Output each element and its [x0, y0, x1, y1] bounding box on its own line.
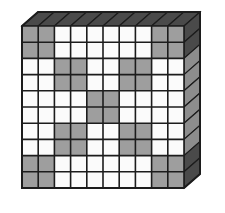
grid-cell-empty [71, 26, 87, 42]
grid-cell-empty [38, 123, 54, 139]
grid-cell-empty [54, 172, 70, 188]
grid-cell-empty [71, 42, 87, 58]
grid-cell-empty [168, 107, 184, 123]
grid-cell-empty [135, 172, 151, 188]
grid-cell-shaded [119, 75, 135, 91]
grid-cell-shaded [168, 26, 184, 42]
grid-cell-shaded [152, 42, 168, 58]
grid-cell-shaded [168, 156, 184, 172]
grid-cell-empty [87, 123, 103, 139]
grid-cell-empty [87, 58, 103, 74]
grid-cell-empty [38, 91, 54, 107]
grid-cell-shaded [38, 26, 54, 42]
grid-cell-empty [135, 91, 151, 107]
grid-cell-empty [119, 107, 135, 123]
grid-cell-shaded [103, 107, 119, 123]
grid-cell-empty [152, 123, 168, 139]
grid-cell-empty [71, 156, 87, 172]
grid-cell-empty [103, 58, 119, 74]
grid-cell-empty [168, 123, 184, 139]
grid-cell-shaded [119, 123, 135, 139]
grid-cell-shaded [168, 172, 184, 188]
grid-cell-shaded [38, 172, 54, 188]
grid-cell-empty [22, 58, 38, 74]
grid-cell-empty [38, 58, 54, 74]
grid-cell-empty [87, 156, 103, 172]
grid-cell-shaded [103, 91, 119, 107]
figure-canvas [0, 0, 225, 213]
grid-cell-empty [119, 26, 135, 42]
grid-cell-empty [135, 156, 151, 172]
grid-cell-empty [22, 123, 38, 139]
grid-cell-shaded [152, 156, 168, 172]
grid-cell-empty [54, 26, 70, 42]
grid-cell-empty [168, 75, 184, 91]
grid-cell-shaded [22, 26, 38, 42]
grid-cell-empty [168, 58, 184, 74]
grid-cell-empty [87, 139, 103, 155]
grid-cell-empty [54, 156, 70, 172]
grid-cell-empty [22, 107, 38, 123]
grid-cell-empty [135, 26, 151, 42]
grid-cell-empty [168, 91, 184, 107]
grid-cell-empty [54, 91, 70, 107]
grid-cell-empty [103, 156, 119, 172]
grid-cell-empty [168, 139, 184, 155]
grid-cell-empty [119, 42, 135, 58]
grid-cell-empty [152, 139, 168, 155]
grid-cell-shaded [135, 139, 151, 155]
grid-cell-empty [103, 75, 119, 91]
grid-cell-shaded [71, 58, 87, 74]
grid-cell-shaded [71, 139, 87, 155]
grid-cell-empty [152, 91, 168, 107]
grid-cell-empty [54, 107, 70, 123]
grid-cell-shaded [22, 172, 38, 188]
grid-cell-shaded [135, 75, 151, 91]
grid-cell-shaded [38, 42, 54, 58]
grid-cell-empty [22, 75, 38, 91]
grid-cell-empty [87, 172, 103, 188]
grid-cell-empty [87, 26, 103, 42]
grid-cell-empty [119, 172, 135, 188]
grid-cell-shaded [87, 91, 103, 107]
grid-cell-empty [135, 107, 151, 123]
grid-cell-empty [152, 58, 168, 74]
grid-cell-empty [87, 75, 103, 91]
grid-cell-empty [38, 75, 54, 91]
grid-cell-empty [119, 156, 135, 172]
grid-cell-shaded [22, 156, 38, 172]
grid-cube-figure [0, 0, 225, 213]
cube-top-face [22, 12, 200, 26]
grid-cell-empty [38, 107, 54, 123]
grid-cell-empty [135, 42, 151, 58]
grid-cell-shaded [87, 107, 103, 123]
grid-cell-shaded [54, 123, 70, 139]
grid-cell-shaded [135, 58, 151, 74]
grid-cell-empty [22, 139, 38, 155]
grid-cell-empty [71, 172, 87, 188]
grid-cell-shaded [119, 58, 135, 74]
grid-cell-shaded [152, 172, 168, 188]
grid-cell-shaded [168, 42, 184, 58]
grid-cell-shaded [71, 75, 87, 91]
grid-cell-empty [103, 139, 119, 155]
grid-cell-empty [119, 91, 135, 107]
grid-cell-empty [38, 139, 54, 155]
grid-cell-empty [103, 42, 119, 58]
grid-cell-shaded [54, 75, 70, 91]
grid-cell-shaded [38, 156, 54, 172]
grid-cell-empty [71, 107, 87, 123]
grid-cell-empty [87, 42, 103, 58]
grid-cell-empty [71, 91, 87, 107]
grid-cell-empty [22, 91, 38, 107]
grid-cell-empty [103, 123, 119, 139]
grid-cell-empty [152, 75, 168, 91]
grid-cell-shaded [152, 26, 168, 42]
grid-cell-empty [54, 42, 70, 58]
grid-cell-shaded [119, 139, 135, 155]
grid-cell-shaded [135, 123, 151, 139]
grid-cell-empty [103, 26, 119, 42]
cube-side-face [184, 12, 200, 188]
grid-cell-shaded [71, 123, 87, 139]
grid-cell-shaded [54, 58, 70, 74]
